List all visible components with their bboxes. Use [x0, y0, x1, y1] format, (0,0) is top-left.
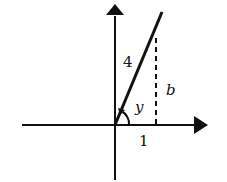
hypotenuse-label: 4	[123, 53, 133, 71]
opposite-label: b	[166, 81, 176, 99]
y-axis-arrowhead-icon	[106, 4, 124, 15]
triangle-diagram: 4 b y 1	[0, 0, 227, 182]
angle-label: y	[134, 98, 144, 116]
y-axis	[106, 4, 124, 180]
angle-arc	[121, 111, 129, 125]
x-axis-arrowhead-icon	[194, 116, 208, 134]
adjacent-label: 1	[139, 132, 149, 150]
